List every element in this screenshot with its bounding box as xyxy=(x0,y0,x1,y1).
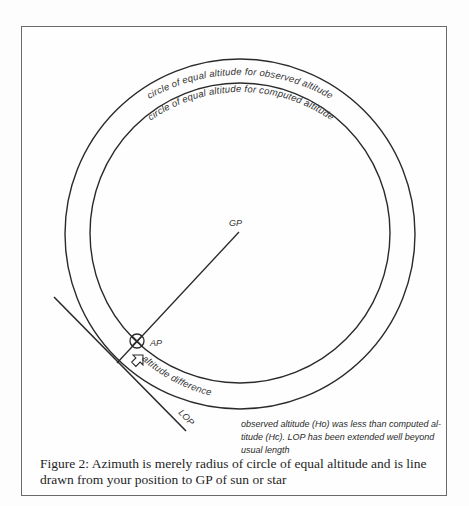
inner-circle-computed-altitude xyxy=(90,83,390,383)
figure-caption: Figure 2: Azimuth is merely radius of ci… xyxy=(40,456,440,488)
outer-circle-observed-altitude xyxy=(65,59,415,409)
gp-label: GP xyxy=(229,218,242,228)
figure-note: observed altitude (Ho) was less than com… xyxy=(241,418,451,457)
altitude-difference-label: altitude difference xyxy=(140,353,213,398)
ap-marker-icon xyxy=(130,334,144,348)
ap-label: AP xyxy=(149,338,162,348)
